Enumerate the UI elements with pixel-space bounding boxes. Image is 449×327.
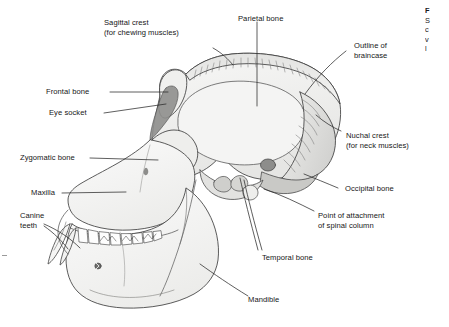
label-eye-socket-line1: Eye socket <box>49 108 87 117</box>
caption-line-1: F <box>425 6 430 15</box>
label-point-of-attachment-line1: Point of attachment <box>318 211 384 221</box>
tooth <box>99 232 110 245</box>
tooth <box>132 233 143 244</box>
label-nuchal-crest: Nuchal crest (for neck muscles) <box>346 131 409 150</box>
label-canine-teeth: Canine teeth <box>20 211 44 230</box>
label-sagittal-crest: Sagittal crest (for chewing muscles) <box>104 18 179 37</box>
label-mandible: Mandible <box>248 295 279 304</box>
label-sagittal-crest-line2: (for chewing muscles) <box>104 28 179 38</box>
skull-outline-group <box>48 53 341 308</box>
label-eye-socket: Eye socket <box>49 108 87 117</box>
spinal-attachment-knob <box>243 185 258 200</box>
label-point-of-attachment: Point of attachment of spinal column <box>318 211 384 230</box>
figure-caption-cropped: F S c v l <box>425 6 449 54</box>
label-nuchal-crest-line2: (for neck muscles) <box>346 141 409 151</box>
label-outline-of-braincase-line2: braincase <box>354 51 387 61</box>
tooth <box>88 230 99 244</box>
mental-foramen <box>95 263 101 269</box>
tooth <box>121 234 132 245</box>
skull-diagram-figure: Sagittal crest (for chewing muscles) Par… <box>0 0 449 327</box>
auditory-meatus <box>261 159 276 171</box>
label-maxilla-line1: Maxilla <box>31 188 55 197</box>
label-occipital-bone: Occipital bone <box>345 184 394 193</box>
tooth <box>78 228 88 243</box>
label-canine-teeth-line1: Canine <box>20 211 44 221</box>
caption-line-5: l <box>425 44 449 54</box>
label-parietal-bone-line1: Parietal bone <box>238 14 283 23</box>
label-canine-teeth-line2: teeth <box>20 221 44 231</box>
label-outline-of-braincase-line1: Outline of <box>354 41 387 51</box>
label-temporal-bone: Temporal bone <box>262 253 313 262</box>
label-occipital-bone-line1: Occipital bone <box>345 184 394 193</box>
label-point-of-attachment-line2: of spinal column <box>318 221 384 231</box>
caption-line-4: v <box>425 35 449 45</box>
caption-line-2: S <box>425 16 449 26</box>
tooth <box>143 232 153 243</box>
tooth <box>110 233 121 245</box>
label-frontal-bone: Frontal bone <box>46 87 89 96</box>
label-nuchal-crest-line1: Nuchal crest <box>346 131 409 141</box>
caption-line-3: c <box>425 25 449 35</box>
page-edge-tick <box>2 255 7 256</box>
condyle-bumps <box>214 176 232 192</box>
label-frontal-bone-line1: Frontal bone <box>46 87 89 96</box>
label-sagittal-crest-line1: Sagittal crest <box>104 18 179 28</box>
label-mandible-line1: Mandible <box>248 295 279 304</box>
label-maxilla: Maxilla <box>31 188 55 197</box>
label-temporal-bone-line1: Temporal bone <box>262 253 313 262</box>
label-outline-of-braincase: Outline of braincase <box>354 41 387 60</box>
label-zygomatic-bone: Zygomatic bone <box>20 153 75 162</box>
label-parietal-bone: Parietal bone <box>238 14 283 23</box>
label-zygomatic-bone-line1: Zygomatic bone <box>20 153 75 162</box>
